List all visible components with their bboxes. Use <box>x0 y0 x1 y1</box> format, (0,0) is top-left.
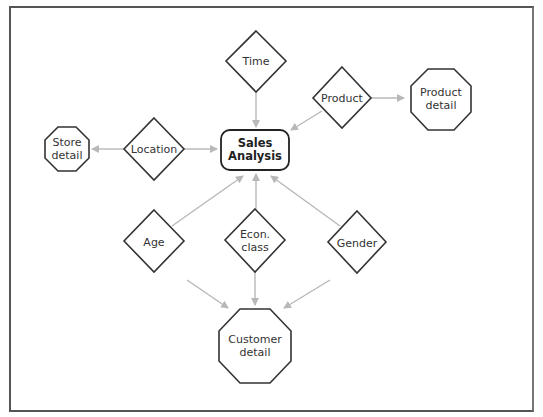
customer-detail-label-line2: detail <box>228 346 281 359</box>
customer-detail-label: Customer detail <box>228 333 281 359</box>
product-detail-label: Product detail <box>420 86 462 112</box>
edge-age-to-sales <box>172 176 243 226</box>
product-detail-label-line1: Product <box>420 86 462 99</box>
econ-class-label: Econ. class <box>240 228 270 254</box>
edge-gender-to-sales <box>271 176 340 226</box>
product-detail-label-line2: detail <box>420 99 462 112</box>
edge-age-to-customer-detail <box>187 280 228 308</box>
gender-label: Gender <box>337 237 378 250</box>
edge-gender-to-customer-detail <box>284 280 330 308</box>
sales-analysis-diagram: Sales Analysis Time Product Product deta… <box>0 0 543 417</box>
sales-analysis-label-line2: Analysis <box>228 150 282 163</box>
store-detail-label-line1: Store <box>52 136 83 149</box>
time-label: Time <box>243 55 270 68</box>
edge-product-to-sales <box>291 111 322 130</box>
store-detail-label: Store detail <box>52 136 83 162</box>
age-label: Age <box>143 236 164 249</box>
sales-analysis-label: Sales Analysis <box>228 137 282 163</box>
location-label: Location <box>131 143 178 156</box>
customer-detail-label-line1: Customer <box>228 333 281 346</box>
econ-class-label-line2: class <box>240 241 270 254</box>
store-detail-label-line2: detail <box>52 149 83 162</box>
product-label: Product <box>321 92 363 105</box>
econ-class-label-line1: Econ. <box>240 228 270 241</box>
